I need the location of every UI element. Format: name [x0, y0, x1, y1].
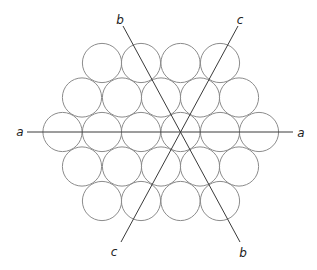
packed-circle	[82, 43, 121, 82]
packed-circle	[62, 147, 101, 186]
axis-line-b	[123, 26, 240, 242]
packed-circle	[161, 43, 200, 82]
axis-label-b-bottom: b	[239, 247, 247, 259]
axis-label-c-top: c	[237, 14, 244, 26]
packed-circle	[121, 181, 160, 220]
packed-circle	[121, 43, 160, 82]
packed-circle	[102, 147, 141, 186]
axis-label-c-bottom: c	[111, 246, 118, 258]
axis-label-a-left: a	[16, 126, 23, 138]
packed-circle	[62, 78, 101, 117]
packing-diagram	[0, 0, 317, 270]
packed-circle	[200, 43, 239, 82]
packed-circle	[141, 78, 180, 117]
packed-circle	[219, 147, 258, 186]
packed-circle	[219, 78, 258, 117]
packed-circle	[180, 78, 219, 117]
axis-label-b-top: b	[116, 14, 124, 26]
packed-circle	[161, 181, 200, 220]
packed-circle	[141, 147, 180, 186]
packed-circle	[82, 181, 121, 220]
packed-circle	[180, 147, 219, 186]
packed-circle	[200, 181, 239, 220]
axis-label-a-right: a	[297, 127, 304, 139]
packed-circle	[102, 78, 141, 117]
axis-line-c	[121, 26, 238, 242]
